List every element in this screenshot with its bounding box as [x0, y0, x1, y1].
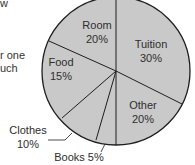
label-tuition-pct: 30% [140, 52, 162, 64]
label-room: Room [82, 19, 111, 31]
label-food: Food [48, 56, 73, 68]
pie-chart: Room 20% Tuition 30% Food 15% Other 20% … [0, 0, 195, 165]
label-tuition: Tuition [135, 38, 168, 50]
label-room-pct: 20% [86, 33, 108, 45]
label-clothes-pct: 10% [17, 138, 39, 150]
label-other: Other [129, 99, 157, 111]
label-clothes: Clothes [9, 124, 47, 136]
label-food-pct: 15% [50, 70, 72, 82]
label-other-pct: 20% [132, 113, 154, 125]
clothes-leader [65, 133, 72, 140]
label-books: Books 5% [54, 151, 104, 163]
